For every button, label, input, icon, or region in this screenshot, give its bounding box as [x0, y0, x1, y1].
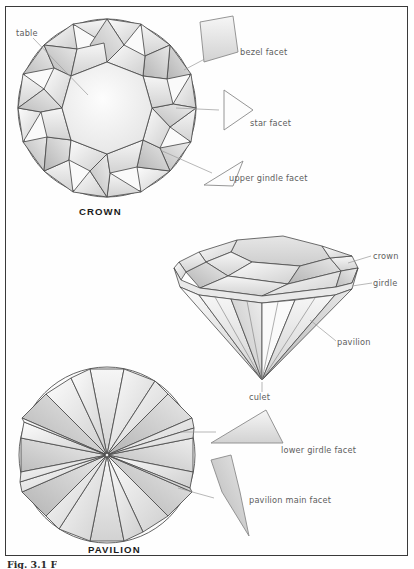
- figure-caption: Fig. 3.1 F: [7, 559, 57, 569]
- label-crown: crown: [373, 251, 399, 261]
- lower-girdle-facet-shape: [211, 410, 283, 443]
- label-table: table: [16, 28, 38, 38]
- view-name-crown: CROWN: [79, 206, 122, 217]
- bezel-facet-shape: [200, 16, 238, 62]
- crown-diagram: [18, 19, 196, 197]
- label-lower-girdle-facet: lower girdle facet: [281, 445, 356, 455]
- pavilion-culet-point: [105, 453, 108, 456]
- diagram-canvas: [0, 0, 414, 569]
- star-facet-shape: [224, 90, 253, 130]
- label-culet: culet: [249, 392, 270, 402]
- label-pavilion-main-facet: pavilion main facet: [249, 495, 331, 505]
- crown-table-facet: [62, 62, 152, 154]
- pavilion-diagram: [19, 367, 195, 543]
- label-girdle: girdle: [373, 278, 397, 288]
- label-pavilion: pavilion: [337, 337, 371, 347]
- pavilion-main-facet-shape: [211, 455, 249, 536]
- label-bezel-facet: bezel facet: [240, 47, 287, 57]
- label-upper-girdle-facet: upper gindle facet: [229, 173, 308, 183]
- label-star-facet: star facet: [250, 118, 291, 128]
- view-name-pavilion: PAVILION: [88, 544, 141, 555]
- profile-diagram: [174, 236, 358, 380]
- diamond-facet-figure: table bezel facet star facet upper gindl…: [0, 0, 414, 569]
